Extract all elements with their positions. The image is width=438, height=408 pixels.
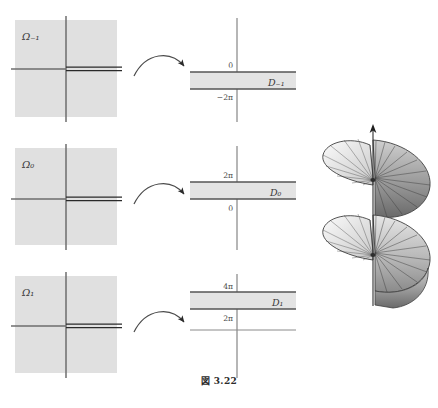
figure-3-22: Ω₋₁ 0 −2π D₋₁ Ω₀ 2π 0 D₀ bbox=[0, 0, 438, 408]
strip-label-d-minus-1: D₋₁ bbox=[267, 77, 284, 88]
map-arrow-1 bbox=[134, 56, 184, 76]
domain-omega-1: Ω₁ bbox=[11, 272, 122, 378]
strip-d-minus-1: 0 −2π D₋₁ bbox=[190, 18, 296, 122]
strip-d-1: 4π 2π D₁ bbox=[190, 274, 296, 378]
strip-label-d-1: D₁ bbox=[271, 297, 283, 308]
tick-bottom-d-minus-1: −2π bbox=[217, 93, 233, 102]
figure-caption: 図 3.22 bbox=[0, 374, 438, 387]
domain-omega-0: Ω₀ bbox=[11, 144, 122, 250]
domain-label-omega-1: Ω₁ bbox=[21, 287, 34, 298]
strip-d-0: 2π 0 D₀ bbox=[190, 146, 296, 250]
tick-bottom-d-1: 2π bbox=[223, 314, 233, 323]
domain-label-omega-minus-1: Ω₋₁ bbox=[21, 31, 40, 42]
curved-arrow-icon bbox=[134, 56, 184, 76]
tick-top-d-minus-1: 0 bbox=[228, 61, 233, 70]
tick-top-d-1: 4π bbox=[223, 282, 233, 291]
domain-label-omega-0: Ω₀ bbox=[21, 159, 34, 170]
tick-top-d-0: 2π bbox=[223, 171, 233, 180]
helicoid-lobe-upper-left bbox=[323, 141, 373, 185]
domain-omega-minus-1: Ω₋₁ bbox=[11, 16, 122, 122]
helicoid-lobe-lower-left bbox=[323, 216, 373, 260]
curved-arrow-icon bbox=[134, 312, 184, 332]
map-arrow-3 bbox=[134, 312, 184, 332]
curved-arrow-icon bbox=[134, 184, 184, 204]
strip-label-d-0: D₀ bbox=[269, 187, 282, 198]
tick-bottom-d-0: 0 bbox=[228, 204, 233, 213]
riemann-surface-helicoid bbox=[323, 124, 430, 308]
map-arrow-2 bbox=[134, 184, 184, 204]
